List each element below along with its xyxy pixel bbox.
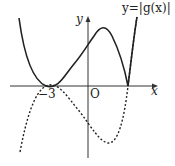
curve-abs-g-x	[19, 17, 137, 87]
function-label: y=|g(x)|	[122, 1, 171, 15]
x-axis-label: x	[151, 84, 158, 98]
x-tick-label: −3	[38, 87, 56, 101]
origin-label: O	[90, 87, 100, 101]
y-axis-label: y	[76, 12, 83, 26]
curve-g-x	[20, 17, 137, 152]
graph-canvas	[0, 0, 175, 166]
y-axis-arrow-icon	[86, 16, 91, 22]
